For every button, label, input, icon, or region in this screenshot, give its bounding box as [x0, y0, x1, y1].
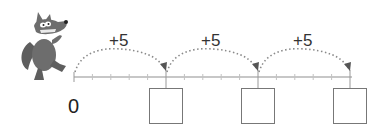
number-line-diagram: +5 +5 +5 0: [0, 0, 390, 132]
number-line-graphics: [0, 0, 390, 132]
start-label: 0: [68, 96, 79, 116]
answer-box-2[interactable]: [241, 88, 275, 124]
jump-label-2: +5: [201, 32, 220, 49]
jump-label-3: +5: [293, 32, 312, 49]
tick-marks: [74, 70, 350, 88]
wolf-icon: [22, 12, 69, 80]
arrowheads: [160, 62, 351, 71]
jump-arcs: [75, 49, 348, 72]
jump-label-1: +5: [109, 32, 128, 49]
answer-box-3[interactable]: [333, 88, 367, 124]
answer-box-1[interactable]: [149, 88, 183, 124]
